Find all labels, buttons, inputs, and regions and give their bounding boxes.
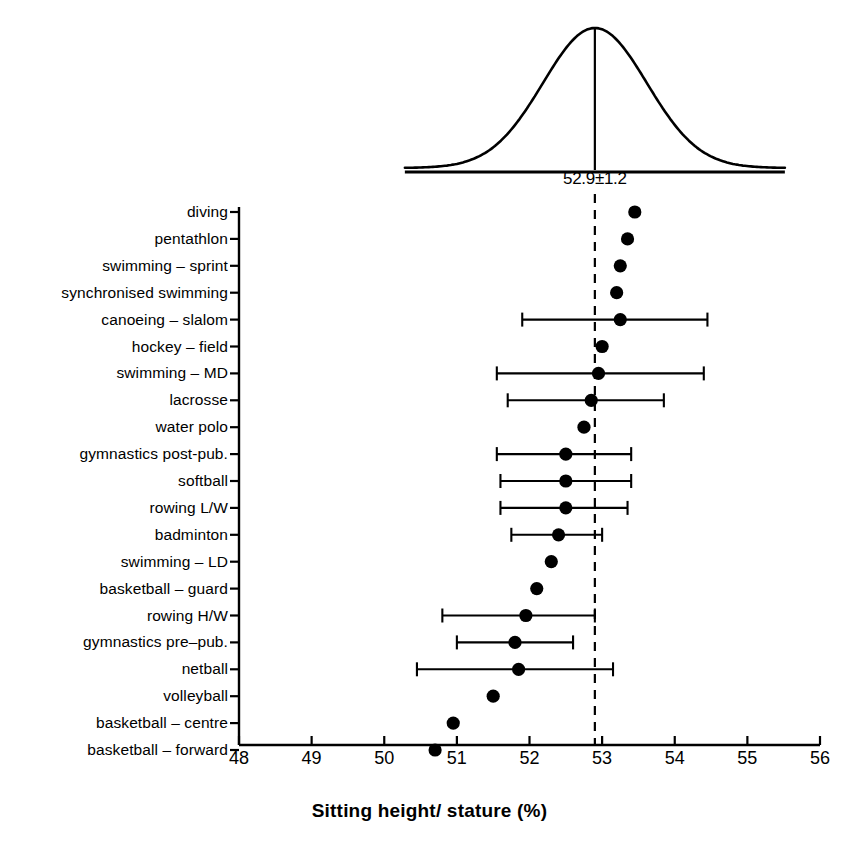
- category-label: pentathlon: [155, 230, 228, 248]
- category-label: synchronised swimming: [61, 284, 228, 302]
- category-label: swimming – MD: [116, 364, 228, 382]
- figure-container: divingpentathlonswimming – sprintsynchro…: [0, 0, 859, 857]
- category-axis-labels: divingpentathlonswimming – sprintsynchro…: [0, 0, 228, 857]
- category-label: hockey – field: [132, 338, 228, 356]
- category-label: gymnastics post-pub.: [80, 445, 228, 463]
- x-tick-label: 48: [229, 748, 249, 769]
- x-tick-label: 56: [810, 748, 830, 769]
- category-label: canoeing – slalom: [101, 311, 228, 329]
- category-label: rowing H/W: [147, 607, 228, 625]
- x-tick-label: 53: [592, 748, 612, 769]
- distribution-mean-label: 52.9±1.2: [563, 169, 627, 189]
- distribution-curve: [405, 28, 785, 172]
- category-label: swimming – sprint: [102, 257, 228, 275]
- category-label: rowing L/W: [149, 499, 228, 517]
- x-tick-label: 54: [665, 748, 685, 769]
- category-label: swimming – LD: [121, 553, 228, 571]
- data-series: [417, 205, 708, 756]
- x-tick-label: 51: [447, 748, 467, 769]
- category-label: basketball – guard: [100, 580, 228, 598]
- x-tick-label: 55: [737, 748, 757, 769]
- category-label: basketball – centre: [96, 714, 228, 732]
- x-tick-label: 52: [519, 748, 539, 769]
- category-label: volleyball: [163, 687, 228, 705]
- category-label: badminton: [155, 526, 228, 544]
- category-label: basketball – forward: [87, 741, 228, 759]
- x-tick-label: 50: [374, 748, 394, 769]
- category-label: water polo: [155, 418, 228, 436]
- category-label: lacrosse: [169, 391, 228, 409]
- x-axis-title: Sitting height/ stature (%): [0, 800, 859, 822]
- category-label: softball: [178, 472, 228, 490]
- category-label: netball: [182, 660, 228, 678]
- category-label: gymnastics pre–pub.: [83, 633, 228, 651]
- category-label: diving: [187, 203, 228, 221]
- x-tick-label: 49: [302, 748, 322, 769]
